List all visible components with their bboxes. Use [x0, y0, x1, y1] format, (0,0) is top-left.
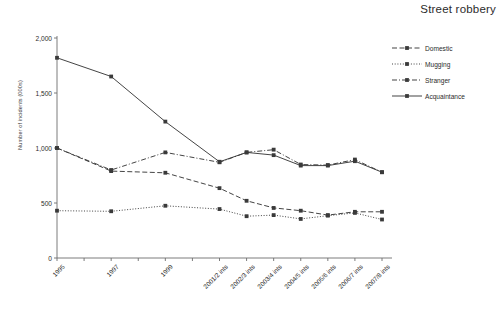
y-tick-label: 1,500: [35, 90, 52, 97]
series-line: [57, 58, 382, 172]
y-axis-tick-labels: 05001,0001,5002,000: [22, 0, 52, 320]
data-point-marker: [218, 160, 222, 164]
series-domestic: [55, 146, 384, 217]
data-point-marker: [55, 56, 59, 60]
data-point-marker: [109, 209, 113, 213]
chart-container: Street robbery Number of incidents (000s…: [0, 0, 504, 320]
data-point-marker: [353, 159, 357, 163]
y-tick-label: 0: [48, 255, 52, 262]
data-point-marker: [299, 209, 303, 213]
legend-item-stranger[interactable]: Stranger: [392, 72, 504, 88]
data-point-marker: [272, 213, 276, 217]
series-mugging: [55, 204, 384, 222]
series-line: [57, 148, 382, 215]
legend-item-label: Acquaintance: [425, 93, 465, 100]
data-point-marker: [163, 204, 167, 208]
data-point-marker: [245, 151, 249, 155]
data-point-marker: [272, 153, 276, 157]
data-point-marker: [163, 171, 167, 175]
data-point-marker: [109, 75, 113, 79]
legend-item-mugging[interactable]: Mugging: [392, 56, 504, 72]
data-point-marker: [299, 164, 303, 168]
y-tick-label: 500: [41, 200, 52, 207]
data-point-marker: [326, 214, 330, 218]
data-point-marker: [218, 186, 222, 190]
data-point-marker: [380, 218, 384, 222]
data-point-marker: [163, 120, 167, 124]
legend-line-swatch: [392, 59, 422, 69]
legend-item-label: Domestic: [425, 45, 452, 52]
data-point-marker: [109, 168, 113, 172]
chart-legend: DomesticMuggingStrangerAcquaintance: [392, 40, 504, 104]
legend-item-label: Stranger: [425, 77, 450, 84]
data-point-marker: [380, 170, 384, 174]
data-point-marker: [299, 217, 303, 221]
data-point-marker: [55, 146, 59, 150]
data-point-marker: [380, 210, 384, 214]
legend-line-swatch: [392, 91, 422, 101]
y-tick-label: 1,000: [35, 145, 52, 152]
data-point-marker: [245, 214, 249, 218]
data-point-marker: [55, 209, 59, 213]
data-point-marker: [245, 199, 249, 203]
data-point-marker: [163, 151, 167, 155]
legend-line-swatch: [392, 75, 422, 85]
data-point-marker: [272, 148, 276, 152]
series-acquaintance: [55, 56, 384, 174]
data-point-marker: [218, 207, 222, 211]
legend-line-swatch: [392, 43, 422, 53]
legend-item-label: Mugging: [425, 61, 450, 68]
chart-title: Street robbery: [420, 3, 496, 15]
data-point-marker: [272, 206, 276, 210]
legend-item-acquaintance[interactable]: Acquaintance: [392, 88, 504, 104]
data-point-marker: [326, 164, 330, 168]
data-point-marker: [353, 211, 357, 215]
y-tick-label: 2,000: [35, 35, 52, 42]
legend-item-domestic[interactable]: Domestic: [392, 40, 504, 56]
